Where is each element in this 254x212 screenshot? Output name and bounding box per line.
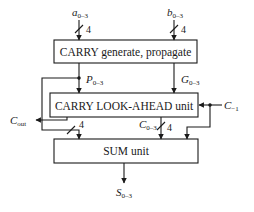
carry-lookahead-label: CARRY LOOK-AHEAD unit xyxy=(55,100,194,112)
b-input-label: b0–3 xyxy=(167,6,184,20)
c-out-label: Cout xyxy=(10,114,26,128)
sum-unit-label: SUM unit xyxy=(103,145,149,157)
b-bus-width: 4 xyxy=(181,24,186,35)
a-bus-width: 4 xyxy=(86,24,91,35)
c-minus1-label: C−1 xyxy=(224,99,239,113)
junction-dot xyxy=(209,104,211,106)
carry-generate-propagate-label: CARRY generate, propagate xyxy=(60,46,191,59)
carry-lookahead-adder-diagram: CARRY generate, propagate CARRY LOOK-AHE… xyxy=(0,0,254,212)
c-bus-width: 4 xyxy=(167,122,172,133)
g-signal-label: G0–3 xyxy=(181,73,200,87)
p-sum-bus-width: 4 xyxy=(79,119,84,130)
a-input-label: a0–3 xyxy=(72,6,89,20)
junction-dot xyxy=(78,77,80,79)
s-output-label: S0–3 xyxy=(116,186,133,200)
p-signal-label: P0–3 xyxy=(85,73,104,87)
c-0-3-label: C0–3 xyxy=(139,118,157,132)
